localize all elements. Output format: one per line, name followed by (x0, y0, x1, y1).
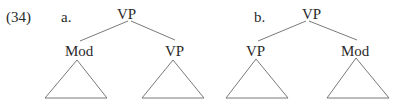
triangle-a-mod (45, 60, 107, 98)
tree-a-right-node: VP (165, 44, 184, 59)
triangle-b-vp (226, 59, 288, 98)
triangle-a-vp (142, 60, 204, 98)
tree-a-label: a. (61, 10, 71, 25)
example-number: (34) (6, 10, 31, 25)
tree-a-left-node: Mod (65, 44, 93, 59)
edge-a-root-left (80, 21, 128, 41)
edge-a-root-right (131, 21, 175, 40)
tree-b-root: VP (302, 7, 321, 22)
tree-b-left-node: VP (246, 44, 265, 59)
tree-b-label: b. (254, 10, 265, 25)
edge-b-root-right (309, 21, 357, 40)
triangle-b-mod (327, 58, 389, 98)
tree-a-root: VP (117, 7, 136, 22)
tree-diagram-lines (0, 0, 393, 104)
tree-b-right-node: Mod (341, 44, 369, 59)
